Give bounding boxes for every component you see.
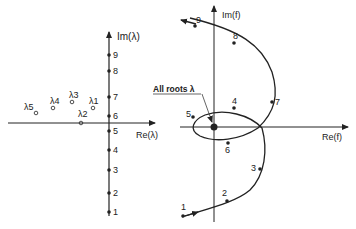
diagram-svg: Im(λ) Re(λ) 1 2 3 4 5 6 7 8 9 λ1 <box>0 0 356 229</box>
point-label: 2 <box>113 188 118 198</box>
right-plot: Im(f) Re(f) 1 2 3 4 5 6 7 8 9 <box>153 6 348 222</box>
re-f-label: Re(f) <box>322 132 342 142</box>
im-lambda-label: Im(λ) <box>117 31 140 42</box>
point-label: 3 <box>251 163 256 173</box>
im-f-label: Im(f) <box>222 10 241 20</box>
root-label: λ3 <box>69 90 79 100</box>
root-label: λ4 <box>50 96 60 106</box>
point-label: 5 <box>113 126 118 136</box>
root-label: λ1 <box>89 96 99 106</box>
roots: λ1 λ2 λ3 λ4 λ5 <box>24 90 99 125</box>
left-plot: Im(λ) Re(λ) 1 2 3 4 5 6 7 8 9 λ1 <box>8 31 158 217</box>
all-roots-annotation: All roots λ <box>153 84 195 94</box>
point-label: 6 <box>113 111 118 121</box>
root-label: λ2 <box>78 109 88 119</box>
point-label: 6 <box>225 145 230 155</box>
point-label: 2 <box>222 188 227 198</box>
root-label: λ5 <box>24 102 34 112</box>
nyquist-curve <box>182 18 275 217</box>
point-label: 5 <box>186 109 191 119</box>
point-label: 1 <box>181 202 186 212</box>
origin-point <box>211 124 218 131</box>
point-label: 7 <box>113 92 118 102</box>
diagram-canvas: Im(λ) Re(λ) 1 2 3 4 5 6 7 8 9 λ1 <box>0 0 356 229</box>
point-label: 7 <box>275 97 280 107</box>
re-lambda-label: Re(λ) <box>136 130 158 140</box>
point-label: 3 <box>113 165 118 175</box>
curve-start-arrow <box>185 212 198 216</box>
annotation-leader <box>202 94 212 122</box>
point-label: 8 <box>233 31 238 41</box>
point-label: 8 <box>113 66 118 76</box>
point-label: 9 <box>113 50 118 60</box>
curve-points: 1 2 3 4 5 6 7 8 9 <box>181 15 280 218</box>
point-label: 4 <box>113 145 118 155</box>
point-label: 4 <box>232 96 237 106</box>
point-label: 1 <box>113 207 118 217</box>
curve-end-arrow <box>181 20 196 24</box>
point-label: 9 <box>196 15 201 25</box>
